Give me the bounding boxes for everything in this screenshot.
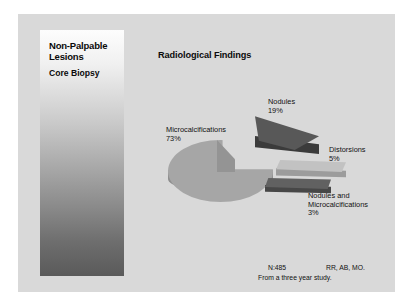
pie-label-microcalcifications-value: 73% xyxy=(166,135,226,144)
pie-label-microcalcifications: Microcalcifications 73% xyxy=(166,126,226,143)
pie-label-nodules-and-microcalcifications-line1: Nodules and xyxy=(308,191,350,200)
slide-heading: Non-Palpable Lesions xyxy=(49,41,121,62)
pie-slice-microcalcifications-inner-face xyxy=(217,140,235,172)
footer-study-note: From a three year study. xyxy=(258,274,332,281)
footer-sample-size: N:485 xyxy=(268,264,286,271)
pie-label-distorsions-name: Distorsions xyxy=(329,145,366,154)
pie-label-distorsions-value: 5% xyxy=(329,155,366,164)
pie-label-nodules-and-microcalcifications-value: 3% xyxy=(308,209,368,218)
pie-label-nodules-name: Nodules xyxy=(268,97,295,106)
chart-title: Radiological Findings xyxy=(158,50,251,60)
pie-label-distorsions: Distorsions 5% xyxy=(329,146,366,163)
pie-label-nodules: Nodules 19% xyxy=(268,98,295,115)
title-gradient-panel: Non-Palpable Lesions Core Biopsy xyxy=(40,30,124,276)
slide-footer: N:485 RR, AB, MO. From a three year stud… xyxy=(258,264,398,274)
slide-subheading: Core Biopsy xyxy=(49,68,121,78)
footer-authors: RR, AB, MO. xyxy=(326,264,365,271)
pie-label-microcalcifications-name: Microcalcifications xyxy=(166,125,226,134)
pie-chart: Microcalcifications 73% Nodules 19% Dist… xyxy=(128,74,393,254)
pie-label-nodules-value: 19% xyxy=(268,107,295,116)
pie-label-nodules-and-microcalcifications: Nodules and Microcalcifications 3% xyxy=(308,192,368,218)
footer-top-row: N:485 RR, AB, MO. xyxy=(258,264,398,274)
presentation-slide: Non-Palpable Lesions Core Biopsy Radiolo… xyxy=(18,14,395,292)
